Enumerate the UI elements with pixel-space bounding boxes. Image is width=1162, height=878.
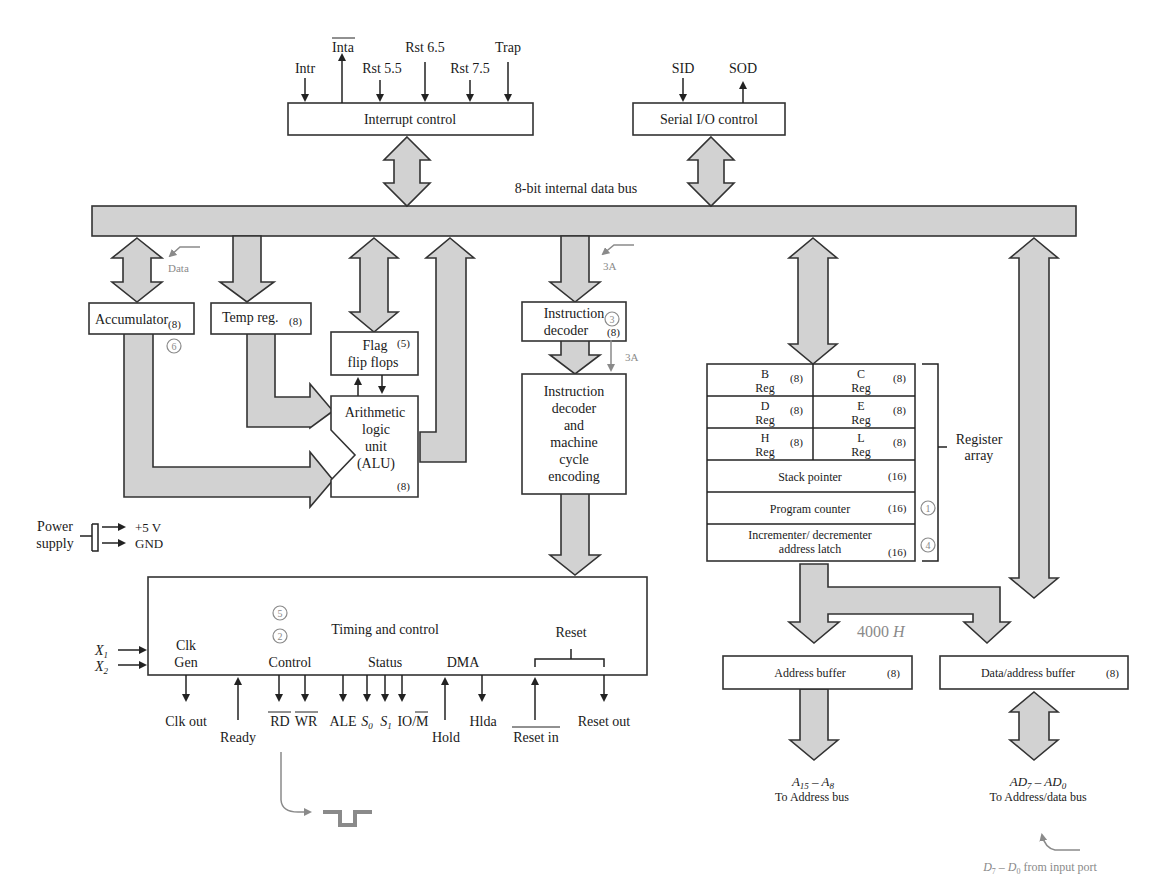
signal-ready: Ready [220, 730, 256, 745]
data-address-buffer-size: (8) [1106, 667, 1119, 680]
inc-dec-line1: Incrementer/ decrementer [748, 528, 872, 542]
annotation-4000h: 4000 H [857, 623, 906, 640]
signal-wr: WR [295, 714, 318, 729]
bus-label: 8-bit internal data bus [515, 181, 637, 196]
power-supply-label-2: supply [36, 536, 73, 551]
register-array-label-2: array [965, 448, 994, 463]
temp-reg-size: (8) [289, 315, 302, 328]
register-array: B Reg (8) C Reg (8) D Reg (8) E Reg (8) … [707, 364, 1003, 561]
timing-control-label: Timing and control [331, 622, 439, 637]
vcc-label: +5 V [135, 520, 162, 535]
x2-label: X2 [94, 659, 109, 676]
alu-line1: Arithmetic [345, 405, 406, 420]
temp-reg-label: Temp reg. [222, 310, 279, 325]
status-group-label: Status [368, 655, 402, 670]
reg-b-sub: Reg [755, 381, 774, 395]
decoder-line6: encoding [548, 469, 599, 484]
instr-reg-size: (8) [607, 326, 620, 339]
data-bus-label: To Address/data bus [989, 790, 1086, 804]
decoder-line3: and [564, 418, 584, 433]
decoder-line2: decoder [552, 401, 597, 416]
program-counter: Program counter [770, 502, 850, 516]
address-bus-label: To Address bus [775, 790, 849, 804]
reg-b-size: (8) [790, 372, 803, 385]
reg-h-sub: Reg [755, 445, 774, 459]
signal-s0: S0 [361, 714, 373, 731]
control-group-label: Control [269, 655, 312, 670]
address-bus-range: A15 – A8 [791, 774, 835, 791]
reg-c: C [857, 367, 865, 381]
rd-pulse-waveform [323, 812, 372, 825]
gnd-label: GND [135, 536, 163, 551]
inc-dec-line2: address latch [779, 542, 841, 556]
circled-4: 4 [926, 540, 931, 551]
signal-rst75: Rst 7.5 [450, 61, 490, 76]
program-counter-size: (16) [888, 502, 907, 515]
flags-line1: Flag [363, 338, 388, 353]
circled-1: 1 [926, 503, 931, 514]
signal-reset-out: Reset out [578, 714, 631, 729]
clk-gen-label-2: Gen [174, 655, 197, 670]
instr-reg-line2: decoder [544, 323, 589, 338]
reset-group-label: Reset [555, 625, 586, 640]
signal-rst65: Rst 6.5 [405, 40, 445, 55]
x1-label: X1 [94, 643, 108, 660]
signal-ale: ALE [329, 714, 356, 729]
reg-e-size: (8) [893, 404, 906, 417]
signal-clk-out: Clk out [165, 714, 207, 729]
decoder-line4: machine [550, 435, 597, 450]
reg-d-size: (8) [790, 404, 803, 417]
register-array-bracket [922, 364, 938, 561]
circled-6: 6 [172, 341, 177, 352]
reg-e: E [857, 399, 864, 413]
signal-hold: Hold [432, 730, 460, 745]
signal-trap: Trap [495, 40, 521, 55]
stack-pointer-size: (16) [888, 470, 907, 483]
signal-sid: SID [672, 61, 695, 76]
interrupt-control-label: Interrupt control [364, 112, 456, 127]
circled-3: 3 [610, 314, 615, 325]
power-supply-label: Power [37, 519, 73, 534]
inc-dec-size: (16) [888, 546, 907, 559]
flags-size: (5) [397, 337, 410, 350]
signal-rst55: Rst 5.5 [362, 61, 402, 76]
reg-l-size: (8) [893, 436, 906, 449]
decoder-line1: Instruction [544, 384, 605, 399]
interrupt-control-group: Interrupt control Intr Inta Rst 5.5 Rst … [288, 38, 533, 135]
block-diagram: Interrupt control Intr Inta Rst 5.5 Rst … [0, 0, 1162, 878]
reg-c-sub: Reg [851, 381, 870, 395]
address-buffer-size: (8) [887, 667, 900, 680]
annotation-3a-2: 3A [625, 351, 639, 363]
signal-intr: Intr [295, 61, 316, 76]
alu-line3: unit [365, 439, 387, 454]
alu-line4: (ALU) [357, 456, 395, 472]
signal-sod: SOD [729, 61, 757, 76]
reg-h-size: (8) [790, 436, 803, 449]
stack-pointer: Stack pointer [778, 470, 842, 484]
decoder-line5: cycle [559, 452, 589, 467]
reg-b: B [761, 367, 769, 381]
circled-5: 5 [278, 608, 283, 619]
signal-inta: Inta [332, 40, 355, 55]
annotation-3a-1: 3A [603, 260, 617, 272]
serial-io-group: Serial I/O control SID SOD [633, 61, 785, 135]
reg-d: D [761, 399, 770, 413]
serial-io-label: Serial I/O control [660, 112, 758, 127]
reg-l-sub: Reg [851, 445, 870, 459]
flags-line2: flip flops [348, 355, 399, 370]
reg-e-sub: Reg [851, 413, 870, 427]
instr-reg-line1: Instruction [544, 306, 605, 321]
alu-line2: logic [362, 422, 390, 437]
reg-h: H [761, 431, 770, 445]
reg-l: L [857, 431, 864, 445]
register-array-label: Register [956, 432, 1003, 447]
annotation-input-port: D7 – D0 from input port [982, 860, 1097, 876]
signal-hlda: Hlda [469, 714, 497, 729]
annotation-data: Data [168, 262, 189, 274]
alu-size: (8) [397, 480, 410, 493]
signal-s1: S1 [380, 714, 392, 731]
reg-d-sub: Reg [755, 413, 774, 427]
clk-gen-label-1: Clk [176, 638, 196, 653]
signal-io-m: IO/M [397, 714, 429, 729]
data-bus-range: AD7 – AD0 [1009, 774, 1067, 791]
